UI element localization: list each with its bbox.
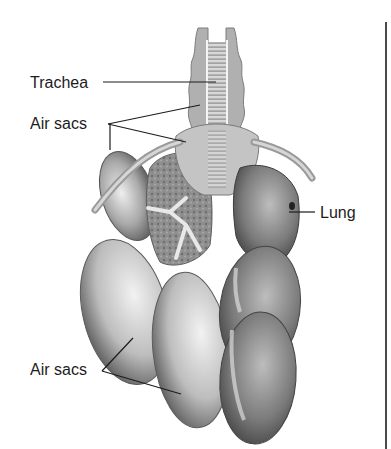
air-sacs-upper-label: Air sacs [30,116,87,132]
air-sacs-upper-leader-1 [108,105,200,124]
frame-rule [385,22,387,449]
diagram-canvas: Trachea Air sacs Lung Air sacs [0,0,391,449]
trachea-shape [188,28,244,130]
lung-label: Lung [320,205,356,221]
respiratory-illustration [0,0,391,449]
air-sacs-lower-label: Air sacs [30,362,87,378]
trachea-label: Trachea [30,75,88,91]
air-sacs-upper-leader-2 [108,124,186,142]
